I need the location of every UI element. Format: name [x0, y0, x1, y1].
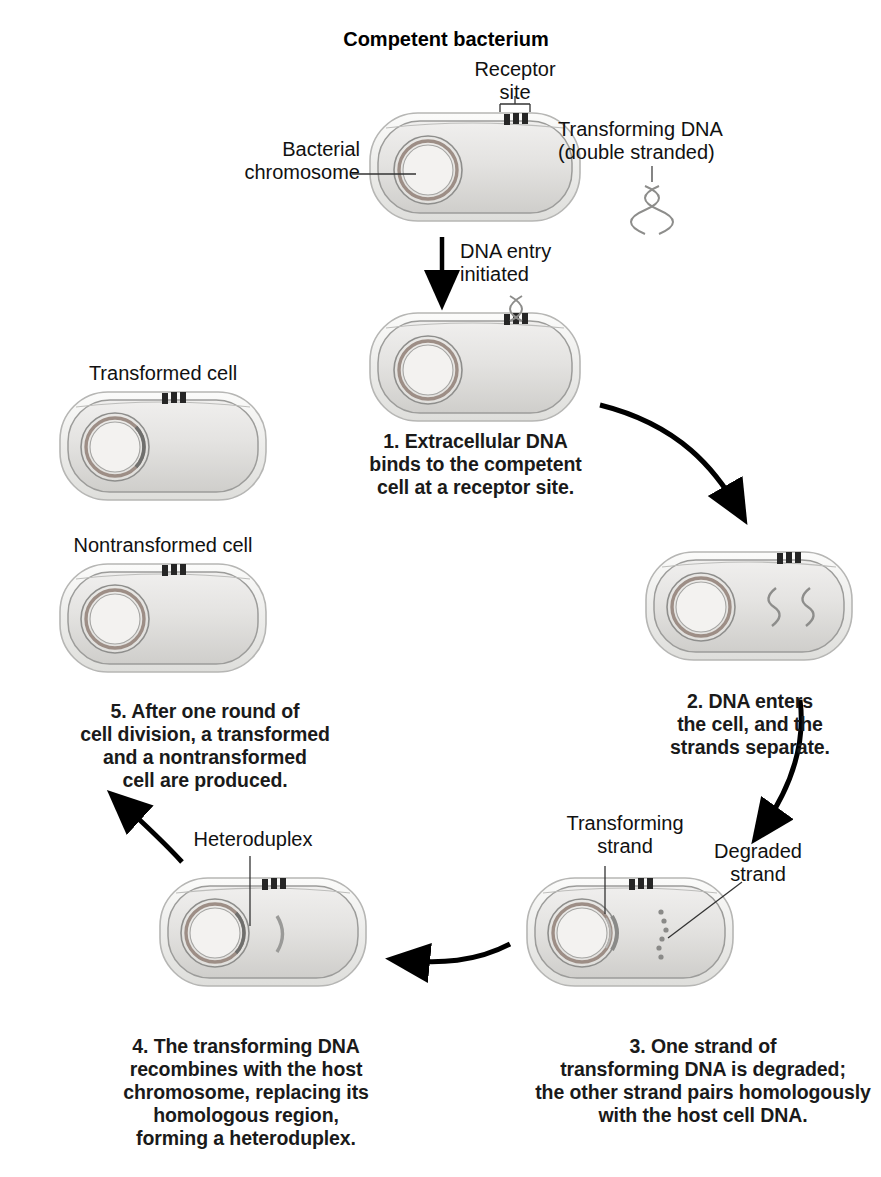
transforming-dna-helix [631, 166, 673, 234]
receptor-site-marker [504, 113, 528, 125]
diagram-canvas [0, 0, 881, 1177]
step-2-caption: 2. DNA enters the cell, and the strands … [630, 690, 870, 759]
dna-entry-label: DNA entry initiated [460, 240, 620, 286]
arrow-1-to-2 [600, 405, 740, 512]
cell-competent-bacterium [370, 113, 580, 221]
heteroduplex-label: Heteroduplex [168, 828, 338, 851]
cell-transformed [60, 392, 266, 500]
chromosome-ring [81, 585, 149, 653]
cell-step-1 [370, 296, 580, 421]
chromosome-ring [394, 336, 462, 404]
cell-nontransformed [60, 564, 266, 672]
arrow-3-to-4 [400, 944, 510, 962]
transformation-diagram: Competent bacterium Receptor site Transf… [0, 0, 881, 1177]
receptor-site-marker [777, 552, 801, 564]
receptor-site-marker [162, 392, 186, 404]
step-4-caption: 4. The transforming DNA recombines with … [68, 1035, 424, 1150]
receptor-site-marker [162, 564, 186, 576]
receptor-site-marker [504, 313, 528, 325]
nontransformed-cell-label: Nontransformed cell [28, 534, 298, 557]
chromosome-ring [667, 573, 735, 641]
chromosome-ring [394, 136, 462, 204]
receptor-site-label: Receptor site [425, 58, 605, 104]
step-1-caption: 1. Extracellular DNA binds to the compet… [338, 430, 613, 499]
cell-step-2 [646, 552, 852, 660]
transforming-dna-label: Transforming DNA (double stranded) [558, 118, 808, 164]
chromosome-ring [181, 899, 249, 967]
receptor-site-marker [629, 878, 653, 890]
figure-title: Competent bacterium [281, 28, 611, 51]
step-5-caption: 5. After one round of cell division, a t… [40, 700, 370, 792]
chromosome-ring [548, 899, 616, 967]
receptor-site-marker [262, 878, 286, 890]
cell-step-3 [527, 878, 733, 986]
chromosome-ring [81, 413, 149, 481]
bacterial-chromosome-label: Bacterial chromosome [200, 138, 360, 184]
transformed-cell-label: Transformed cell [48, 362, 278, 385]
step-3-caption: 3. One strand of transforming DNA is deg… [525, 1035, 881, 1127]
degraded-strand-label: Degraded strand [678, 840, 838, 886]
cell-step-4 [160, 878, 366, 986]
